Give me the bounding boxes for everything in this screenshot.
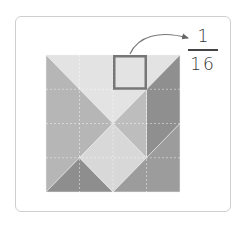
fraction-label: 1 16 <box>188 26 218 74</box>
fraction-numerator: 1 <box>188 26 218 46</box>
curved-arrow-icon <box>130 35 188 54</box>
fraction-bar <box>188 49 218 51</box>
fraction-denominator: 16 <box>188 54 218 74</box>
